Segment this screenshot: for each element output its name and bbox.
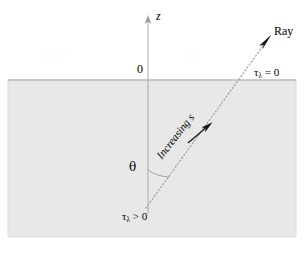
- tau-surface-value: = 0: [262, 66, 279, 78]
- tau-surface-label: τλ = 0: [254, 67, 279, 80]
- ray-arrow-icon: [259, 35, 271, 50]
- increasing-s-arrow-icon: [188, 122, 213, 143]
- figure-canvas: z 0 Ray τλ = 0 τλ > 0 θ Increasing s Int…: [0, 0, 306, 254]
- origin-label: 0: [137, 63, 143, 75]
- tau-medium-label: τλ > 0: [122, 211, 147, 224]
- ray-label: Ray: [274, 25, 293, 37]
- geometry-layer: [0, 0, 306, 254]
- theta-arc: [148, 170, 170, 177]
- ray-line: [146, 39, 268, 208]
- z-axis-label: z: [156, 10, 161, 22]
- tau-medium-value: > 0: [130, 210, 147, 222]
- theta-angle-label: θ: [129, 161, 136, 173]
